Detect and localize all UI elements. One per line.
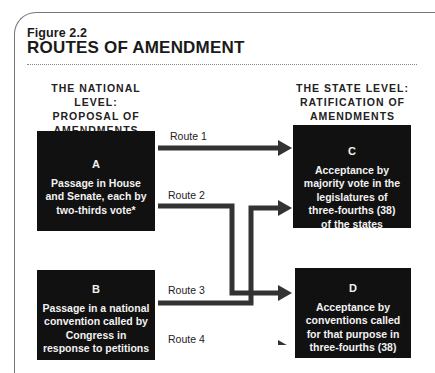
route-2-arrowhead-icon [278,285,292,301]
route-4-arrowhead-icon [278,340,292,345]
route-3-arrowhead-icon [278,200,292,216]
route-2-arrow [158,206,280,293]
route-1-arrowhead-icon [278,140,292,156]
route-3-arrow [158,208,280,303]
